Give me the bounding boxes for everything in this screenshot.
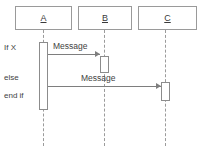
sequence-diagram-canvas: A B C Message Message If X else end if	[0, 0, 206, 151]
participant-box-c[interactable]: C	[138, 6, 197, 30]
message-label-1: Message	[53, 42, 88, 51]
participant-box-a[interactable]: A	[15, 6, 72, 30]
participant-label-c: C	[164, 14, 171, 23]
guard-label-endif: end if	[4, 92, 24, 100]
message-line-2[interactable]	[48, 86, 161, 87]
message-arrowhead-1	[95, 51, 100, 57]
guard-label-else: else	[4, 74, 19, 82]
participant-label-a: A	[40, 14, 46, 23]
message-label-2: Message	[81, 74, 116, 83]
participant-box-b[interactable]: B	[78, 6, 132, 30]
participant-label-b: B	[102, 14, 108, 23]
activation-bar-c[interactable]	[161, 82, 170, 101]
message-arrowhead-2	[156, 83, 161, 89]
lifeline-b	[104, 30, 105, 146]
activation-bar-b[interactable]	[100, 56, 109, 73]
message-line-1[interactable]	[48, 54, 100, 55]
activation-bar-a[interactable]	[39, 42, 48, 110]
guard-label-if: If X	[4, 44, 16, 52]
